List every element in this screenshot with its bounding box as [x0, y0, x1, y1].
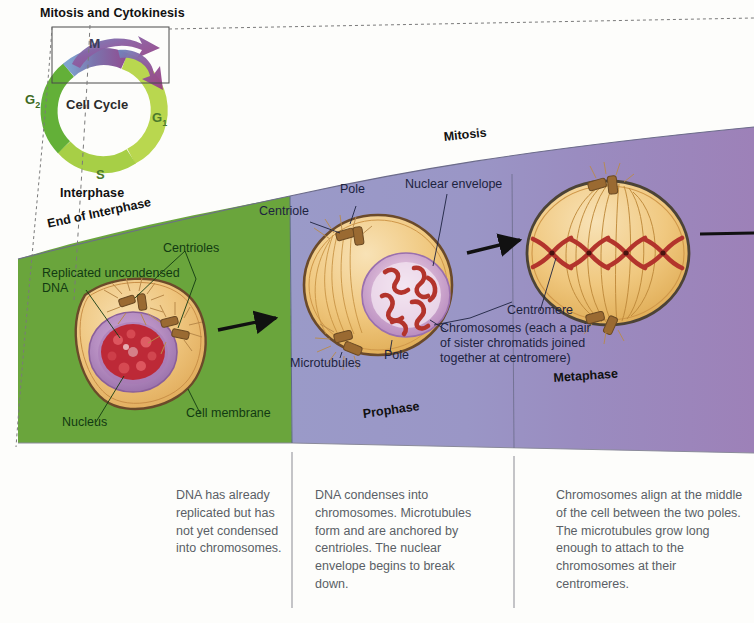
ring-label-g2: G2	[25, 92, 40, 110]
callout-nucleus: Nucleus	[62, 415, 107, 429]
ring-label-g1: G1	[152, 110, 167, 128]
callout-nuclear-envelope: Nuclear envelope	[405, 177, 502, 191]
cell-cycle-ring	[49, 27, 169, 165]
callout-centromere: Centromere	[507, 303, 573, 317]
interphase-label: Interphase	[60, 186, 124, 200]
callout-centriole: Centriole	[259, 204, 309, 218]
callout-chromosomes-line1: Chromosomes (each a pair	[440, 321, 591, 335]
caption-metaphase: Chromosomes align at the middle of the c…	[556, 487, 748, 594]
caption-interphase: DNA has already replicated but has not y…	[176, 487, 288, 558]
callout-pole-top: Pole	[340, 182, 365, 196]
g1-sub: 1	[162, 118, 167, 128]
callout-chromosomes-line3: together at centromere)	[440, 351, 571, 365]
callout-replicated-dna-line2: DNA	[42, 281, 68, 295]
figure-canvas: Mitosis and Cytokinesis Cell Cycle M G1 …	[0, 0, 754, 623]
chromatin	[101, 324, 165, 380]
callout-centrioles: Centrioles	[163, 241, 219, 255]
callout-microtubules: Microtubules	[290, 356, 361, 370]
callout-replicated-dna-line1: Replicated uncondensed	[42, 266, 180, 280]
caption-prophase: DNA condenses into chromosomes. Microtub…	[315, 487, 487, 594]
ring-segment-s	[64, 147, 131, 164]
g2-letter: G	[25, 92, 35, 107]
ring-label-s: S	[96, 167, 105, 182]
centriole-metaphase-top-b	[607, 176, 618, 195]
callout-chromosomes-line2: of sister chromatids joined	[440, 336, 585, 350]
callout-cell-membrane: Cell membrane	[186, 406, 271, 420]
mitosis-cytokinesis-label: Mitosis and Cytokinesis	[40, 6, 185, 20]
cell-interphase	[76, 278, 206, 409]
g1-letter: G	[152, 110, 162, 125]
callout-pole-bottom: Pole	[384, 348, 409, 362]
cell-cycle-center-label: Cell Cycle	[66, 97, 128, 112]
centriole-prophase-top-b	[353, 226, 364, 245]
g2-sub: 2	[35, 100, 40, 110]
ring-label-m: M	[89, 36, 100, 51]
arrow-to-anaphase	[700, 233, 754, 234]
